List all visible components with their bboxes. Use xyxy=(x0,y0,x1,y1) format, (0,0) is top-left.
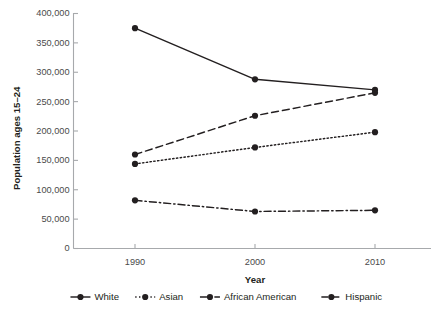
legend-marker-icon xyxy=(77,294,83,300)
legend-marker-icon xyxy=(207,294,213,300)
data-point-marker xyxy=(132,197,138,203)
x-tick-label: 1990 xyxy=(125,257,145,267)
legend-item-african-american[interactable]: African American xyxy=(200,291,297,302)
series-white xyxy=(132,25,378,93)
x-tick-label: 2010 xyxy=(365,257,385,267)
data-point-marker xyxy=(132,151,138,157)
legend-item-white[interactable]: White xyxy=(70,291,119,302)
legend-marker-icon xyxy=(328,294,334,300)
data-point-marker xyxy=(372,207,378,213)
series-asian xyxy=(132,129,378,167)
legend-label: African American xyxy=(224,291,297,302)
y-axis-title: Population ages 15–24 xyxy=(11,86,22,190)
legend-label: Asian xyxy=(159,291,183,302)
data-point-marker xyxy=(252,113,258,119)
y-tick-label: 250,000 xyxy=(36,97,69,107)
x-tick-label: 2000 xyxy=(245,257,265,267)
x-axis-ticks: 199020002010 xyxy=(125,244,385,267)
series-african-american xyxy=(132,197,378,214)
data-point-marker xyxy=(252,144,258,150)
y-tick-label: 0 xyxy=(64,243,69,253)
legend-label: White xyxy=(94,291,119,302)
legend-item-hispanic[interactable]: Hispanic xyxy=(321,291,382,302)
x-axis-title: Year xyxy=(245,274,266,285)
chart-canvas: 050,000100,000150,000200,000250,000300,0… xyxy=(0,0,441,311)
y-axis-ticks: 050,000100,000150,000200,000250,000300,0… xyxy=(36,8,78,253)
y-tick-label: 300,000 xyxy=(36,67,69,77)
y-tick-label: 400,000 xyxy=(36,8,69,18)
data-point-marker xyxy=(132,25,138,31)
data-point-marker xyxy=(372,90,378,96)
population-line-chart: 050,000100,000150,000200,000250,000300,0… xyxy=(0,0,441,311)
data-series-group xyxy=(132,25,378,215)
data-point-marker xyxy=(252,208,258,214)
y-tick-label: 50,000 xyxy=(41,214,69,224)
data-point-marker xyxy=(372,129,378,135)
data-point-marker xyxy=(252,76,258,82)
y-tick-label: 150,000 xyxy=(36,155,69,165)
data-point-marker xyxy=(132,161,138,167)
y-tick-label: 200,000 xyxy=(36,126,69,136)
y-tick-label: 350,000 xyxy=(36,38,69,48)
legend-marker-icon xyxy=(142,294,148,300)
y-tick-label: 100,000 xyxy=(36,185,69,195)
legend-label: Hispanic xyxy=(345,291,382,302)
chart-legend: WhiteAsianAfrican AmericanHispanic xyxy=(70,291,382,302)
legend-item-asian[interactable]: Asian xyxy=(135,291,183,302)
